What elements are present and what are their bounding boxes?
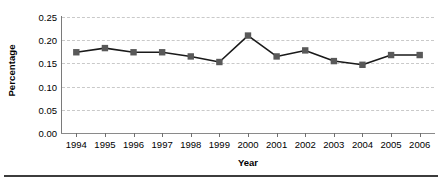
x-tick-mark bbox=[76, 133, 77, 137]
y-tick-label: 0.25 bbox=[39, 12, 58, 23]
data-point-marker bbox=[416, 52, 422, 58]
data-point-marker bbox=[331, 58, 337, 64]
x-tick-label: 1998 bbox=[180, 139, 201, 150]
x-tick-label: 1997 bbox=[152, 139, 173, 150]
x-axis-tick-labels: 1994199519961997199819992000200120022003… bbox=[62, 133, 434, 159]
x-tick-label: 2001 bbox=[266, 139, 287, 150]
x-tick-mark bbox=[277, 133, 278, 137]
y-tick-label: 0.20 bbox=[39, 35, 58, 46]
y-axis-title: Percentage bbox=[0, 0, 22, 140]
x-tick-mark bbox=[191, 133, 192, 137]
x-tick-mark bbox=[248, 133, 249, 137]
x-tick-mark bbox=[391, 133, 392, 137]
data-point-marker bbox=[388, 52, 394, 58]
data-point-marker bbox=[302, 47, 308, 53]
x-tick-label: 2002 bbox=[295, 139, 316, 150]
line-series-svg bbox=[62, 17, 434, 133]
data-point-marker bbox=[130, 49, 136, 55]
x-tick-label: 2004 bbox=[352, 139, 373, 150]
x-tick-mark bbox=[305, 133, 306, 137]
x-tick-label: 1995 bbox=[94, 139, 115, 150]
y-tick-label: 0.05 bbox=[39, 104, 58, 115]
chart-figure: Percentage 0.000.050.100.150.200.25 1994… bbox=[0, 0, 442, 184]
data-point-marker bbox=[216, 59, 222, 65]
data-point-marker bbox=[73, 49, 79, 55]
x-tick-mark bbox=[162, 133, 163, 137]
plot-area bbox=[62, 17, 434, 133]
y-tick-label: 0.00 bbox=[39, 128, 58, 139]
series-line bbox=[76, 36, 419, 65]
x-tick-mark bbox=[334, 133, 335, 137]
x-tick-mark bbox=[420, 133, 421, 137]
x-tick-mark bbox=[134, 133, 135, 137]
data-point-marker bbox=[102, 45, 108, 51]
x-axis-title: Year bbox=[62, 157, 434, 168]
y-axis-tick-labels: 0.000.050.100.150.200.25 bbox=[22, 0, 60, 140]
x-tick-mark bbox=[219, 133, 220, 137]
x-tick-label: 2005 bbox=[380, 139, 401, 150]
x-tick-label: 1994 bbox=[66, 139, 87, 150]
y-tick-label: 0.10 bbox=[39, 81, 58, 92]
data-point-marker bbox=[159, 49, 165, 55]
data-point-marker bbox=[273, 53, 279, 59]
x-tick-label: 2000 bbox=[237, 139, 258, 150]
x-tick-label: 1999 bbox=[209, 139, 230, 150]
y-axis-title-text: Percentage bbox=[6, 44, 17, 96]
bottom-divider bbox=[4, 175, 438, 177]
data-point-marker bbox=[359, 62, 365, 68]
x-tick-label: 1996 bbox=[123, 139, 144, 150]
x-tick-label: 2006 bbox=[409, 139, 430, 150]
x-tick-mark bbox=[362, 133, 363, 137]
x-tick-mark bbox=[105, 133, 106, 137]
x-tick-label: 2003 bbox=[323, 139, 344, 150]
data-point-marker bbox=[188, 53, 194, 59]
data-point-marker bbox=[245, 32, 251, 38]
y-tick-label: 0.15 bbox=[39, 58, 58, 69]
